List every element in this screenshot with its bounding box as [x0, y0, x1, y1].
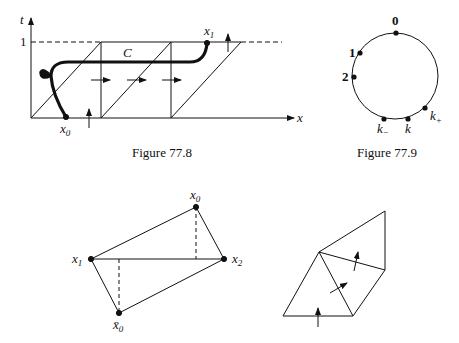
edge-x1-x0bar: [91, 259, 119, 313]
label-k-minus: k−: [377, 121, 389, 137]
point-x1: [88, 256, 93, 261]
label-x0bar: x̄0: [112, 317, 124, 334]
t-axis-label: t: [20, 12, 24, 27]
one-label: 1: [20, 34, 27, 49]
edge-x0-x2: [196, 207, 224, 259]
edge-x1-x0: [91, 207, 196, 259]
label-1: 1: [349, 45, 356, 60]
point-x0: [63, 114, 68, 119]
point-0: [393, 30, 398, 35]
point-x2: [221, 256, 226, 261]
x-axis-label: x: [296, 110, 303, 125]
edge-e: [319, 252, 353, 316]
diagonal-1: [31, 42, 101, 118]
caption-77-8: Figure 77.8: [132, 145, 192, 160]
point-2: [351, 74, 356, 79]
figure-quadrilateral: [88, 204, 226, 315]
point-1: [357, 50, 362, 55]
edge-x0bar-x2: [119, 259, 224, 313]
label-x0: x0: [189, 187, 201, 204]
figure-77-9: 0 1 2 k− k k+ Figure 77.9: [342, 13, 442, 160]
arrow-middle: [330, 283, 347, 293]
figure-quadrilateral-labels: x0 x1 x2 x̄0: [71, 187, 243, 334]
label-0: 0: [392, 13, 399, 28]
label-x1: x1: [71, 251, 82, 268]
label-x2: x2: [231, 251, 243, 268]
figures-canvas: t 1 C x x0 x1 Figure 77.8 0 1 2 k− k k+ …: [0, 0, 459, 343]
label-2: 2: [342, 69, 349, 84]
caption-77-9: Figure 77.9: [357, 145, 417, 160]
label-k-plus: k+: [430, 108, 442, 125]
x0-label: x0: [59, 121, 71, 138]
x1-label: x1: [203, 23, 214, 40]
point-x0: [193, 204, 198, 209]
figure-77-8-labels: t 1 C x x0 x1 Figure 77.8: [20, 12, 303, 160]
point-k-plus: [422, 105, 427, 110]
edge-c: [319, 252, 385, 270]
figure-triangles: [283, 211, 385, 327]
edge-a: [319, 211, 385, 252]
curve-c-label: C: [123, 45, 132, 60]
figure-77-8: [31, 18, 294, 128]
edge-f: [283, 252, 319, 316]
edge-d: [353, 270, 385, 316]
curve-loop: [40, 70, 51, 78]
point-x1: [204, 40, 209, 45]
label-k: k: [405, 121, 411, 136]
point-x0bar: [116, 310, 121, 315]
